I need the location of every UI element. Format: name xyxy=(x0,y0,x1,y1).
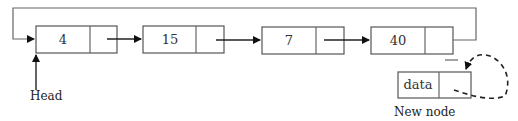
node-value: 15 xyxy=(162,32,179,47)
head-pointer: Head xyxy=(30,55,63,103)
node-value: 7 xyxy=(285,33,293,48)
list-node-1: 4 xyxy=(36,26,117,53)
node-box xyxy=(143,26,224,53)
node-value: 4 xyxy=(59,32,67,47)
new-node-label: New node xyxy=(394,105,455,119)
node-value: 40 xyxy=(390,33,407,48)
list-node-4: 40 xyxy=(371,27,453,54)
head-label: Head xyxy=(30,89,63,103)
new-node: data New node xyxy=(394,72,471,119)
node-value: data xyxy=(403,77,432,92)
linked-list-diagram: 4 15 7 40 Head data New node xyxy=(0,0,518,121)
node-box xyxy=(371,27,453,54)
node-box xyxy=(36,26,117,53)
list-node-2: 15 xyxy=(143,26,224,53)
